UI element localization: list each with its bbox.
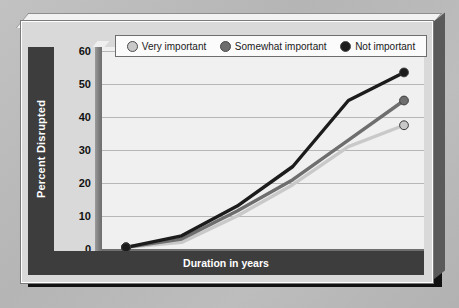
series-line <box>126 101 404 248</box>
legend-marker-icon <box>127 41 138 52</box>
legend-item: Not important <box>340 41 415 52</box>
series-line <box>126 72 404 247</box>
legend-marker-icon <box>340 41 351 52</box>
legend-label: Very important <box>142 41 206 52</box>
chart-plate: Percent Disrupted 0102030405060 01351015… <box>20 20 434 284</box>
y-tick-label: 50 <box>79 78 91 90</box>
chart-screenshot: Percent Disrupted 0102030405060 01351015… <box>0 0 459 308</box>
series-lines <box>102 47 424 251</box>
y-axis-tick-labels: 0102030405060 <box>55 47 95 251</box>
y-axis-title: Percent Disrupted <box>35 100 47 198</box>
legend-label: Somewhat important <box>235 41 327 52</box>
y-axis-title-band: Percent Disrupted <box>28 47 54 251</box>
y-tick-label: 30 <box>79 144 91 156</box>
y-tick-label: 40 <box>79 111 91 123</box>
plot-area <box>102 47 424 251</box>
y-axis-spine <box>95 45 102 251</box>
legend-label: Not important <box>355 41 415 52</box>
legend-item: Somewhat important <box>220 41 327 52</box>
chart-legend: Very importantSomewhat importantNot impo… <box>115 35 427 57</box>
legend-marker-icon <box>220 41 231 52</box>
y-tick-label: 60 <box>79 45 91 57</box>
x-axis-title-band: Duration in years <box>28 251 424 275</box>
y-tick-label: 10 <box>79 210 91 222</box>
series-marker <box>400 121 409 130</box>
legend-item: Very important <box>127 41 206 52</box>
y-tick-label: 20 <box>79 177 91 189</box>
series-marker <box>400 96 409 105</box>
x-axis-title: Duration in years <box>28 257 424 269</box>
series-marker <box>400 68 409 77</box>
